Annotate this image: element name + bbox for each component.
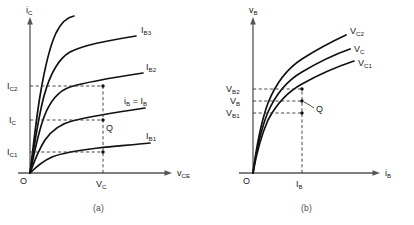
transistor-characteristics-svg: iC vCE O IC2 IC IC1 VC <box>0 0 414 225</box>
panel-b-ytick-vb2: VB2 <box>226 84 240 95</box>
panel-b-curve-label-vc2: VC2 <box>350 26 364 37</box>
caption-panel-a: (a) <box>93 203 104 213</box>
panel-b-marker-vb1 <box>300 111 303 114</box>
panel-a-xtick-vc: VC <box>96 179 107 190</box>
panel-a-curve-label-ib: iB = IB <box>124 96 147 107</box>
panel-a-ytick-ic: IC <box>9 115 17 126</box>
panel-b-xtick-ib: IB <box>296 179 303 190</box>
panel-b-ytick-vb1: VB1 <box>226 108 240 119</box>
panel-a-x-arrow-icon <box>165 170 173 176</box>
panel-b-origin-label: O <box>243 176 250 186</box>
panel-a-origin-label: O <box>20 176 27 186</box>
panel-b-q-marker <box>300 99 303 102</box>
figure-container: iC vCE O IC2 IC IC1 VC <box>0 0 414 225</box>
panel-a-marker-ic1 <box>101 150 104 153</box>
panel-a-curve-label-ib1: IB1 <box>146 131 157 142</box>
panel-a-q-marker <box>101 118 104 121</box>
panel-a-ytick-ic1: IC1 <box>7 147 18 158</box>
panel-b: vB iB O VB2 VB VB1 IB VC2 <box>226 5 391 190</box>
panel-a-y-axis-title: iC <box>26 5 33 16</box>
panel-a-x-axis-title: vCE <box>177 168 190 179</box>
panel-b-curve-label-vc: VC <box>354 44 365 55</box>
panel-b-x-axis-title: iB <box>385 168 391 179</box>
panel-a-axes <box>18 17 172 176</box>
panel-b-curve-label-vc1: VC1 <box>358 58 372 69</box>
panel-a-marker-ic2 <box>101 84 104 87</box>
panel-b-curve-vc1 <box>253 61 354 173</box>
panel-a: iC vCE O IC2 IC IC1 VC <box>7 5 190 190</box>
panel-b-marker-vb2 <box>300 87 303 90</box>
panel-b-q-label: Q <box>316 104 323 114</box>
panel-b-y-arrow-icon <box>250 17 256 25</box>
caption-panel-b: (b) <box>301 203 312 213</box>
panel-a-curve-label-ib2: IB2 <box>146 62 157 73</box>
panel-b-x-arrow-icon <box>373 170 381 176</box>
panel-b-q-leader-line <box>304 102 314 108</box>
panel-a-ytick-ic2: IC2 <box>7 81 18 92</box>
panel-b-y-axis-title: vB <box>249 5 258 16</box>
panel-a-curve-ib <box>30 108 145 173</box>
panel-a-saturation-locus <box>30 16 74 173</box>
panel-b-ytick-vb: VB <box>230 96 240 107</box>
panel-a-projection-lines <box>30 86 103 173</box>
panel-a-y-arrow-icon <box>27 17 33 25</box>
panel-b-axes <box>239 17 380 176</box>
panel-a-q-label: Q <box>106 123 113 133</box>
panel-a-curve-ib1 <box>30 143 150 173</box>
panel-a-curve-label-ib3: IB3 <box>141 25 152 36</box>
